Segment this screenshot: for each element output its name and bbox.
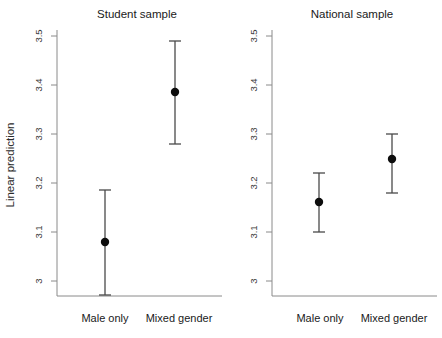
y-tick-label: 3.3 bbox=[33, 127, 44, 140]
y-tick-label: 3 bbox=[33, 278, 44, 283]
y-tick-label: 3.5 bbox=[33, 29, 44, 42]
point-marker bbox=[101, 238, 109, 246]
y-axis-title: Linear prediction bbox=[4, 122, 16, 207]
panel-student-sample: Student sample 3.5 3.4 3.3 3.2 3.1 3 bbox=[33, 8, 222, 324]
point-marker bbox=[171, 88, 179, 96]
y-tick-label: 3.5 bbox=[248, 29, 259, 42]
y-tick-label: 3.1 bbox=[33, 225, 44, 238]
y-axis-ticks-left: 3.5 3.4 3.3 3.2 3.1 3 bbox=[33, 29, 57, 283]
y-tick-label: 3.1 bbox=[248, 225, 259, 238]
y-tick-label: 3.4 bbox=[33, 78, 44, 91]
x-category-label-mixed-gender: Mixed gender bbox=[361, 312, 428, 324]
error-bar-chart-figure: Linear prediction Student sample 3.5 3.4… bbox=[0, 0, 442, 338]
x-category-label-male-only: Male only bbox=[296, 312, 344, 324]
data-point-student-mixed-gender bbox=[169, 41, 181, 144]
y-tick-label: 3.4 bbox=[248, 78, 259, 91]
y-tick-label: 3.2 bbox=[248, 176, 259, 189]
y-tick-label: 3.3 bbox=[248, 127, 259, 140]
data-point-national-male-only bbox=[313, 173, 325, 232]
y-tick-label: 3 bbox=[248, 278, 259, 283]
point-marker bbox=[388, 155, 396, 163]
y-tick-label: 3.2 bbox=[33, 176, 44, 189]
data-point-national-mixed-gender bbox=[386, 134, 398, 193]
y-axis-ticks-right: 3.5 3.4 3.3 3.2 3.1 3 bbox=[248, 29, 272, 283]
x-category-label-male-only: Male only bbox=[81, 312, 129, 324]
panel-national-sample: National sample 3.5 3.4 3.3 3.2 3.1 3 bbox=[248, 8, 437, 324]
point-marker bbox=[315, 198, 323, 206]
panel-title-national-sample: National sample bbox=[311, 8, 393, 20]
panel-title-student-sample: Student sample bbox=[97, 8, 177, 20]
x-category-label-mixed-gender: Mixed gender bbox=[146, 312, 213, 324]
data-point-student-male-only bbox=[99, 190, 111, 295]
